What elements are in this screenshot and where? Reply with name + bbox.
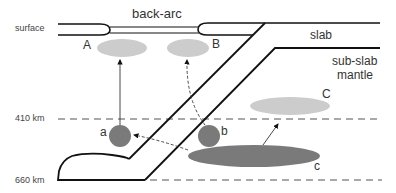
right-plate-outline bbox=[198, 23, 380, 35]
depth-label-surface: surface bbox=[15, 24, 45, 33]
depth-label-660: 660 km bbox=[15, 176, 45, 185]
reservoir-c bbox=[188, 145, 320, 167]
arrow-c-to-a bbox=[134, 135, 188, 150]
reservoir-b bbox=[198, 125, 220, 147]
label-c: c bbox=[314, 160, 320, 172]
left-trench-outline bbox=[58, 24, 110, 35]
arrow-c-to-C bbox=[263, 124, 278, 145]
label-back-arc: back-arc bbox=[132, 7, 182, 20]
reservoir-B bbox=[167, 39, 209, 57]
label-sub-slab: sub-slab bbox=[332, 55, 377, 67]
stagnant-slab bbox=[58, 154, 145, 180]
reservoir-C bbox=[250, 97, 330, 115]
depth-label-410: 410 km bbox=[15, 114, 45, 123]
label-C: C bbox=[322, 88, 331, 100]
label-b: b bbox=[221, 125, 228, 137]
label-A: A bbox=[83, 39, 91, 51]
subduction-diagram bbox=[0, 0, 396, 193]
label-slab: slab bbox=[310, 29, 332, 41]
label-a: a bbox=[100, 126, 107, 138]
reservoir-a bbox=[109, 125, 131, 147]
label-B: B bbox=[212, 38, 220, 50]
reservoir-A bbox=[97, 39, 147, 57]
label-mantle: mantle bbox=[337, 69, 373, 81]
